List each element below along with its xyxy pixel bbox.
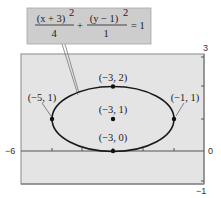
ellipse-graph-figure: −6 0 3 −1 (−3, 2) (−5, 1) (−1, 1) (−3, 1… xyxy=(0,0,221,198)
eq-den2: 1 xyxy=(103,28,108,39)
label-left: (−5, 1) xyxy=(28,92,57,104)
label-center: (−3, 1) xyxy=(99,104,128,116)
eq-exp1: 2 xyxy=(69,7,74,18)
point-left xyxy=(50,117,54,121)
point-bottom xyxy=(111,149,115,153)
label-right: (−1, 1) xyxy=(171,92,200,104)
eq-plus: + xyxy=(77,20,83,31)
eq-exp2: 2 xyxy=(123,7,128,18)
label-top: (−3, 2) xyxy=(99,72,128,84)
eq-num1: (x + 3) xyxy=(37,13,66,25)
eq-num2: (y − 1) xyxy=(90,13,119,25)
equation-callout: (x + 3) 2 4 + (y − 1) 2 1 = 1 xyxy=(27,7,151,44)
point-center xyxy=(111,117,115,121)
eq-den1: 4 xyxy=(51,28,57,39)
y-max-label: 3 xyxy=(203,43,208,53)
point-right xyxy=(172,117,176,121)
label-bottom: (−3, 0) xyxy=(99,132,128,144)
x-max-label: 0 xyxy=(208,146,213,156)
x-min-label: −6 xyxy=(5,146,15,156)
eq-equals: = 1 xyxy=(131,20,145,31)
point-top xyxy=(111,84,115,88)
y-min-label: −1 xyxy=(196,186,206,196)
